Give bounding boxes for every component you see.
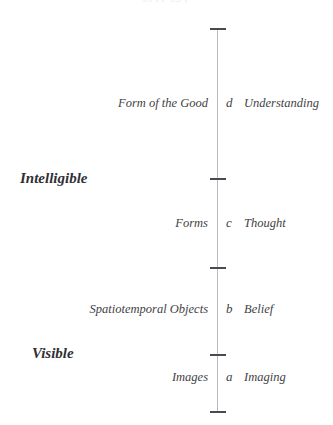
segment-letter-d: d bbox=[226, 94, 233, 112]
tick-top-terminus bbox=[210, 28, 226, 30]
segment-object-a: Images bbox=[172, 368, 208, 386]
segment-state-a: Imaging bbox=[244, 368, 286, 386]
tick-division-c-d bbox=[210, 178, 226, 180]
tick-division-b-c bbox=[210, 267, 226, 269]
segment-object-b: Spatiotemporal Objects bbox=[90, 300, 208, 318]
segment-letter-c: c bbox=[226, 214, 232, 232]
segment-state-b: Belief bbox=[244, 300, 273, 318]
segment-object-c: Forms bbox=[175, 214, 208, 232]
segment-letter-b: b bbox=[226, 300, 233, 318]
segment-state-c: Thought bbox=[244, 214, 286, 232]
tick-division-a-b bbox=[210, 354, 226, 356]
segment-letter-a: a bbox=[226, 368, 233, 386]
tick-bottom-terminus bbox=[210, 411, 226, 413]
realm-label-visible: Visible bbox=[32, 345, 74, 362]
divided-line-figure: gg pp gg p Intelligible Visible Form of … bbox=[0, 0, 333, 425]
cut-off-text-above: gg pp gg p bbox=[0, 0, 333, 3]
segment-object-d: Form of the Good bbox=[118, 94, 208, 112]
segment-state-d: Understanding bbox=[244, 94, 319, 112]
realm-label-intelligible: Intelligible bbox=[20, 170, 88, 187]
